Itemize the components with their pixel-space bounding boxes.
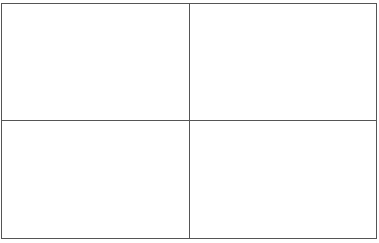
grid-cell-bottom-right [190,121,376,238]
grid-cell-top-right [190,4,376,121]
grid-cell-bottom-left [2,121,190,238]
grid-table [1,3,377,239]
grid-cell-top-left [2,4,190,121]
